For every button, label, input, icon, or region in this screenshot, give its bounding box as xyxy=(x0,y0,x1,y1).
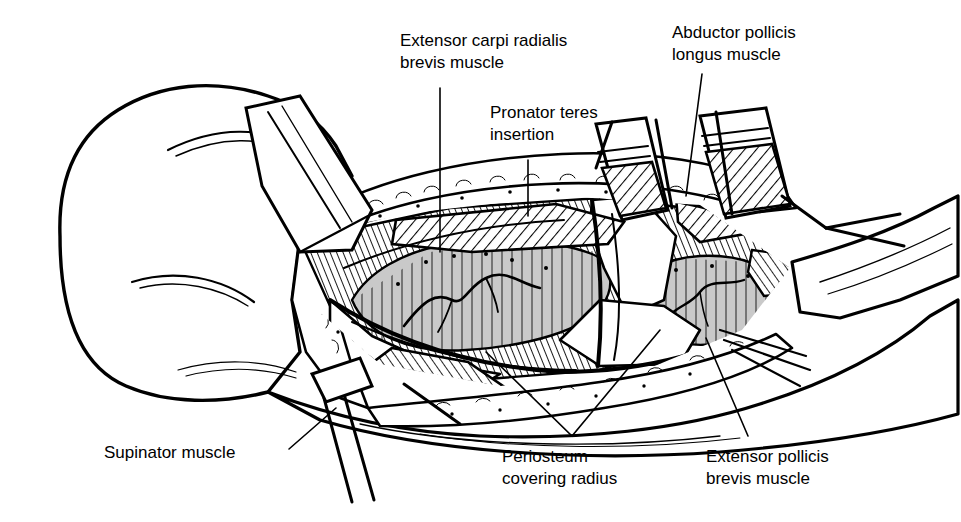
label-epb-line1: Extensor pollicis xyxy=(706,447,829,466)
label-ecrb-line1: Extensor carpi radialis xyxy=(400,31,567,50)
label-epb-line2: brevis muscle xyxy=(706,469,810,488)
label-supinator-muscle: Supinator muscle xyxy=(104,443,235,462)
label-supinator-line1: Supinator muscle xyxy=(104,443,235,462)
label-apl-line1: Abductor pollicis xyxy=(672,23,796,42)
label-ecrb-line2: brevis muscle xyxy=(400,53,504,72)
label-periosteum-line1: Periosteum xyxy=(502,447,588,466)
label-periosteum-line2: covering radius xyxy=(502,469,617,488)
label-pronator-line2: insertion xyxy=(490,125,554,144)
label-apl-line2: longus muscle xyxy=(672,45,781,64)
illustration-canvas: Extensor carpi radialis brevis muscle Pr… xyxy=(0,0,961,522)
label-pronator-line1: Pronator teres xyxy=(490,103,598,122)
surgical-anatomy-figure: Extensor carpi radialis brevis muscle Pr… xyxy=(0,0,961,522)
